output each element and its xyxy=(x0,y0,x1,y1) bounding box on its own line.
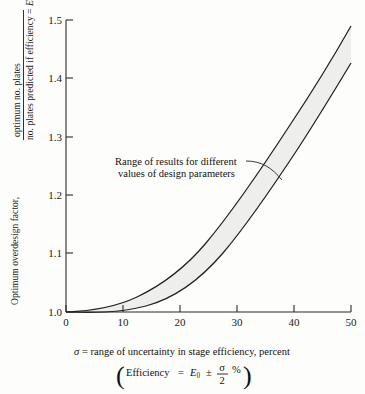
y-axis-label-fraction: optimum no. plates no. plates predicted … xyxy=(11,0,37,140)
x-axis-caption-formula: ( Efficiency = E0 ± σ 2 % ) xyxy=(116,361,252,390)
x-tick-label-10: 10 xyxy=(118,316,130,328)
paren-open: ( xyxy=(116,361,125,390)
x-tick-label-40: 40 xyxy=(289,316,301,328)
caption-main-text: range of uncertainty in stage efficiency… xyxy=(90,346,289,357)
chart-canvas: 1.5 1.4 1.3 1.2 1.1 1.0 0 10 20 30 40 50… xyxy=(0,0,365,394)
y-tick-label-1.4: 1.4 xyxy=(48,72,62,84)
x-tick-label-20: 20 xyxy=(175,316,187,328)
formula-fraction-numerator: σ xyxy=(219,362,225,373)
x-axis-caption-line-1: σ = range of uncertainty in stage effici… xyxy=(74,346,290,357)
y-tick-label-1.1: 1.1 xyxy=(48,247,62,259)
y-tick-label-1.3: 1.3 xyxy=(48,131,62,143)
y-tick-label-1.2: 1.2 xyxy=(48,189,62,201)
paren-close: ) xyxy=(243,361,252,390)
denominator-text: no. plates predicted if efficiency = xyxy=(24,6,35,140)
annotation-line-2: values of design parameters xyxy=(118,168,235,179)
y-tick-label-1.0: 1.0 xyxy=(48,306,62,318)
page-bottom-rule xyxy=(0,390,365,391)
y-axis-label-denominator: no. plates predicted if efficiency = E0 xyxy=(24,0,37,140)
y-tick-label-1.5: 1.5 xyxy=(48,14,62,26)
formula-plusminus: ± xyxy=(206,367,212,378)
x-tick-label-50: 50 xyxy=(346,316,358,328)
x-tick-label-30: 30 xyxy=(232,316,244,328)
formula-equals: = xyxy=(178,367,184,378)
x-tick-label-0: 0 xyxy=(63,316,69,328)
formula-E-subscript: 0 xyxy=(196,372,200,380)
figure-page: 1.5 1.4 1.3 1.2 1.1 1.0 0 10 20 30 40 50… xyxy=(0,0,365,394)
formula-percent: % xyxy=(232,364,241,375)
formula-E: E0 xyxy=(189,367,200,380)
y-axis-label-numerator: optimum no. plates xyxy=(11,63,22,137)
annotation-line-1: Range of results for different xyxy=(115,156,237,167)
formula-fraction-denominator: 2 xyxy=(219,375,224,386)
y-axis-label-prefix: Optimum overdesign factor, xyxy=(9,197,20,305)
formula-label: Efficiency xyxy=(126,367,170,378)
